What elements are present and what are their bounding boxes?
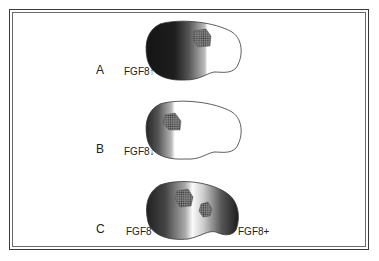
- panel-c-letter: C: [96, 223, 105, 235]
- panel-a-letter: A: [96, 64, 104, 76]
- panel-a-cortex: [146, 21, 241, 80]
- panel-a-fgf8-label: FGF8↑: [124, 67, 155, 77]
- panel-b-cortex: [146, 101, 241, 159]
- panel-b-letter: B: [96, 143, 104, 155]
- panel-c-cortex: [147, 182, 239, 240]
- panel-b-fgf8-label: FGF8↓: [124, 147, 155, 157]
- figure-diagram: [0, 0, 379, 261]
- panel-c-fgf8-left-label: FGF8: [126, 227, 152, 237]
- panel-c-fgf8-right-label: FGF8+: [238, 227, 269, 237]
